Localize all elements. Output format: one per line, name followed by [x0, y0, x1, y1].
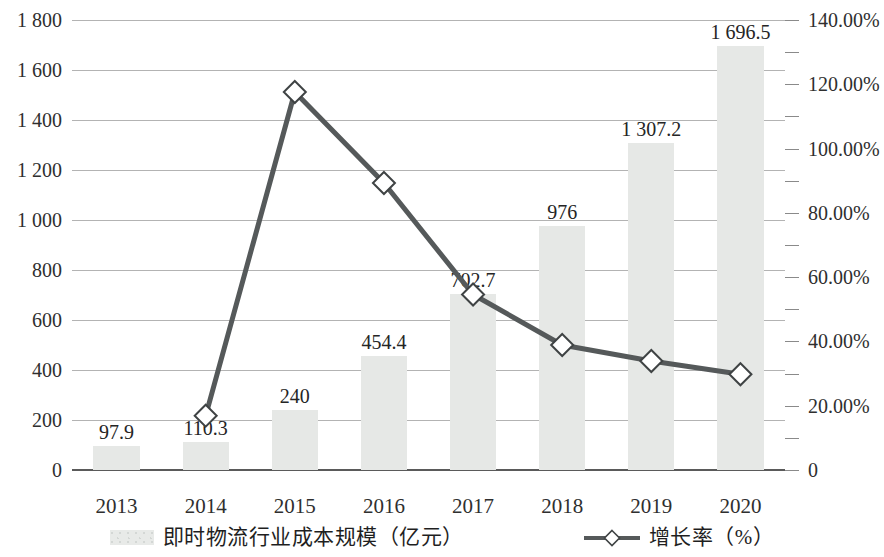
y-axis-right-tick-mark [785, 341, 799, 342]
growth-rate-line-series [72, 20, 785, 470]
diamond-marker-icon [373, 172, 395, 194]
x-axis-tick-label: 2018 [541, 496, 583, 517]
y-axis-right-tick-label: 0 [808, 460, 818, 480]
y-axis-right-tick-mark [785, 470, 799, 471]
y-axis-left-tick-label: 1 600 [0, 60, 62, 80]
y-axis-right-tick-mark [785, 277, 799, 278]
y-axis-left-tick-label: 600 [0, 310, 62, 330]
x-axis-tick-label: 2016 [363, 496, 405, 517]
gridline [72, 220, 785, 221]
y-axis-right-tick-mark [785, 438, 799, 439]
x-axis-tick-label: 2014 [185, 496, 227, 517]
line-diamond-icon [584, 529, 640, 547]
y-axis-right-tick-mark [785, 181, 799, 182]
y-axis-left-tick-label: 1 000 [0, 210, 62, 230]
y-axis-right-tick-label: 100.00% [808, 139, 880, 159]
bar [717, 46, 763, 470]
diamond-marker-icon [284, 81, 306, 103]
bar-value-label: 702.7 [451, 270, 496, 290]
bar-value-label: 97.9 [99, 422, 134, 442]
gridline [72, 320, 785, 321]
y-axis-right-tick-label: 140.00% [808, 10, 880, 30]
x-axis-tick-label: 2019 [630, 496, 672, 517]
bar-value-label: 1 307.2 [621, 119, 681, 139]
gridline [72, 70, 785, 71]
bar [93, 446, 139, 470]
y-axis-left-tick-label: 0 [0, 460, 62, 480]
plot-area: 02004006008001 0001 2001 4001 6001 800 0… [72, 20, 785, 470]
gridline [72, 270, 785, 271]
y-axis-right-tick-mark [785, 84, 799, 85]
gridline [72, 420, 785, 421]
legend-label-cost-scale: 即时物流行业成本规模（亿元） [163, 527, 464, 548]
bar [361, 356, 407, 470]
bar [183, 442, 229, 470]
y-axis-right-tick-mark [785, 52, 799, 53]
chart-legend: 即时物流行业成本规模（亿元） 增长率（%） [0, 518, 884, 557]
x-axis-line [72, 469, 785, 471]
gridline [72, 370, 785, 371]
y-axis-left-tick-label: 400 [0, 360, 62, 380]
y-axis-right-tick-mark [785, 213, 799, 214]
gridline [72, 20, 785, 21]
y-axis-right-tick-mark [785, 309, 799, 310]
y-axis-right-tick-mark [785, 149, 799, 150]
y-axis-left-tick-label: 1 200 [0, 160, 62, 180]
x-axis-tick-label: 2013 [96, 496, 138, 517]
bar-value-label: 976 [547, 202, 577, 222]
y-axis-right-tick-mark [785, 116, 799, 117]
y-axis-right-tick-mark [785, 245, 799, 246]
y-axis-right-tick-label: 120.00% [808, 74, 880, 94]
y-axis-right-tick-mark [785, 20, 799, 21]
x-axis-tick-label: 2020 [719, 496, 761, 517]
y-axis-left-tick-label: 200 [0, 410, 62, 430]
x-axis-tick-label: 2017 [452, 496, 494, 517]
x-axis-tick-label: 2015 [274, 496, 316, 517]
bar-swatch-icon [110, 530, 154, 545]
y-axis-left-tick-label: 800 [0, 260, 62, 280]
y-axis-right-tick-label: 60.00% [808, 267, 870, 287]
legend-label-growth-rate: 增长率（%） [649, 527, 775, 548]
bar-value-label: 1 696.5 [710, 22, 770, 42]
y-axis-left-tick-label: 1 800 [0, 10, 62, 30]
bar-value-label: 454.4 [361, 332, 406, 352]
legend-item-cost-scale: 即时物流行业成本规模（亿元） [110, 527, 464, 548]
y-axis-left-tick-label: 1 400 [0, 110, 62, 130]
bar [450, 294, 496, 470]
bar [272, 410, 318, 470]
bar [539, 226, 585, 470]
y-axis-right-tick-label: 80.00% [808, 203, 870, 223]
y-axis-right-tick-mark [785, 374, 799, 375]
bar-value-label: 110.3 [184, 418, 228, 438]
y-axis-right-tick-label: 20.00% [808, 396, 870, 416]
y-axis-right-tick-mark [785, 406, 799, 407]
gridline [72, 170, 785, 171]
chart-container: 02004006008001 0001 2001 4001 6001 800 0… [0, 0, 884, 557]
y-axis-right-tick-label: 40.00% [808, 331, 870, 351]
bar [628, 143, 674, 470]
legend-item-growth-rate: 增长率（%） [584, 527, 775, 548]
bar-value-label: 240 [280, 386, 310, 406]
